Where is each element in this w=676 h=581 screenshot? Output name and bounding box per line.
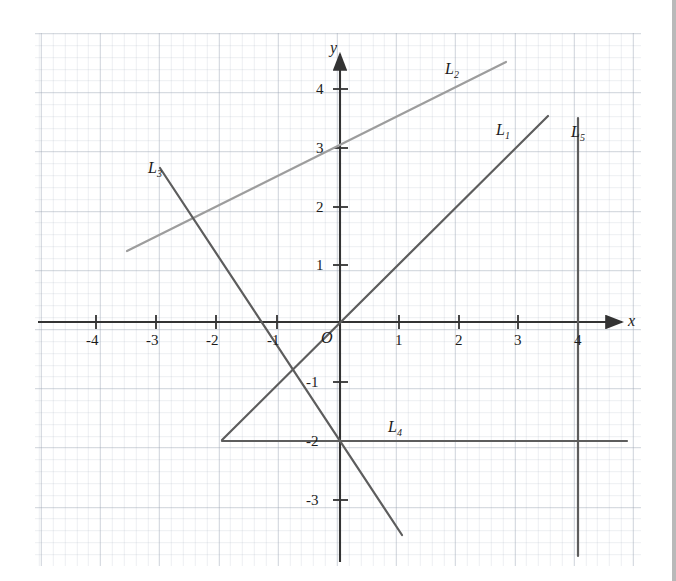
line-label-L5-letter: L [571, 123, 580, 140]
line-label-L3-letter: L [148, 159, 157, 176]
y-tick-label-1: 1 [316, 258, 324, 273]
line-label-L3-index: 3 [157, 168, 162, 179]
line-label-L1-index: 1 [505, 130, 510, 141]
line-label-L4-letter: L [388, 418, 397, 435]
line-label-L1-letter: L [496, 121, 505, 138]
y-tick-label-2: 2 [316, 200, 324, 215]
line-L3 [160, 168, 402, 535]
x-tick-label--4: -4 [86, 333, 99, 348]
line-L1 [222, 116, 548, 440]
x-tick-label-2: 2 [455, 333, 463, 348]
line-label-L2-index: 2 [454, 69, 459, 80]
y-tick-label-3: 3 [316, 141, 324, 156]
line-label-L2-letter: L [445, 60, 454, 77]
x-tick-label--2: -2 [206, 333, 219, 348]
x-tick-label--3: -3 [146, 333, 159, 348]
y-tick-label--2: -2 [306, 434, 319, 449]
x-tick-label-3: 3 [514, 333, 522, 348]
line-label-L3: L3 [148, 160, 162, 179]
figure-page: x y O -4 -3 -2 -1 1 2 3 4 4 3 2 1 -1 -2 … [0, 0, 676, 581]
x-tick-label-1: 1 [395, 333, 403, 348]
x-tick-label-4: 4 [574, 333, 582, 348]
origin-label: O [321, 330, 333, 346]
x-axis-label: x [628, 313, 635, 329]
y-tick-label--1: -1 [306, 375, 319, 390]
coordinate-plot [0, 0, 676, 581]
line-label-L5-index: 5 [580, 132, 585, 143]
line-label-L5: L5 [571, 124, 585, 143]
y-tick-label-4: 4 [316, 82, 324, 97]
y-tick-label--3: -3 [306, 493, 319, 508]
line-label-L1: L1 [496, 122, 510, 141]
line-label-L4-index: 4 [397, 427, 402, 438]
line-label-L4: L4 [388, 419, 402, 438]
x-tick-label--1: -1 [267, 333, 280, 348]
line-label-L2: L2 [445, 61, 459, 80]
y-axis-label: y [330, 40, 337, 56]
